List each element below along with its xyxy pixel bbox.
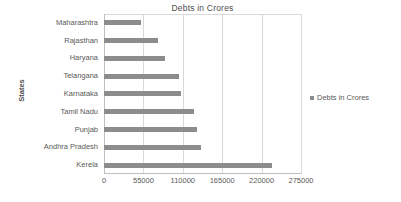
- y-axis-tick-label: Telangana: [25, 72, 98, 80]
- bar[interactable]: [104, 127, 197, 132]
- y-axis-tick-label: Tamil Nadu: [25, 108, 98, 116]
- plot-area: [104, 14, 301, 174]
- bar[interactable]: [104, 38, 158, 43]
- x-axis-tick-label: 110000: [171, 176, 195, 185]
- bar[interactable]: [104, 56, 165, 61]
- bar[interactable]: [104, 163, 272, 168]
- x-axis-tick-label: 220000: [249, 176, 274, 185]
- chart-legend: Debts in Crores: [310, 93, 369, 102]
- bar[interactable]: [104, 20, 141, 25]
- y-axis-tick-label: Andhra Pradesh: [25, 143, 98, 151]
- bar-row[interactable]: [104, 85, 301, 103]
- y-axis-tick-label: Haryana: [25, 54, 98, 62]
- bars-layer: [104, 14, 301, 174]
- bar-row[interactable]: [104, 156, 301, 174]
- bar-row[interactable]: [104, 50, 301, 68]
- x-axis-tick-label: 165000: [210, 176, 235, 185]
- bar-row[interactable]: [104, 138, 301, 156]
- bar[interactable]: [104, 145, 201, 150]
- y-axis-tick-label: Kerela: [25, 161, 98, 169]
- legend-entry-label: Debts in Crores: [317, 93, 369, 102]
- bar-row[interactable]: [104, 67, 301, 85]
- bar-chart: Debts in Crores States MaharashtraRajast…: [0, 0, 401, 202]
- y-axis-tick-label: Punjab: [25, 126, 98, 134]
- bar-row[interactable]: [104, 32, 301, 50]
- y-axis-tick-label: Karnataka: [25, 90, 98, 98]
- bar-row[interactable]: [104, 14, 301, 32]
- bar[interactable]: [104, 91, 181, 96]
- gridline: [301, 14, 302, 174]
- bar[interactable]: [104, 74, 179, 79]
- bar-row[interactable]: [104, 121, 301, 139]
- legend-marker-icon: [310, 96, 314, 100]
- bar-row[interactable]: [104, 103, 301, 121]
- bar[interactable]: [104, 109, 194, 114]
- y-axis-tick-label: Maharashtra: [25, 19, 98, 27]
- x-axis-tick-label: 55000: [133, 176, 154, 185]
- x-axis-line: [104, 173, 301, 174]
- x-axis-tick-label: 0: [102, 176, 106, 185]
- y-axis-tick-label: Rajasthan: [25, 37, 98, 45]
- y-axis-tick-labels: MaharashtraRajasthanHaryanaTelanganaKarn…: [28, 14, 101, 174]
- x-axis-tick-labels: 055000110000165000220000275000: [104, 176, 301, 188]
- chart-title: Debts in Crores: [104, 3, 301, 13]
- x-axis-tick-label: 275000: [288, 176, 313, 185]
